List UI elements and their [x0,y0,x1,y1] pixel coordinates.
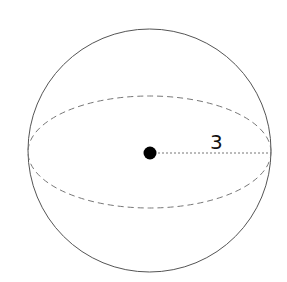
sphere-diagram: 3 [0,0,287,282]
center-point [144,147,157,160]
radius-label: 3 [210,130,223,154]
sphere-figure: 3 [0,0,287,282]
